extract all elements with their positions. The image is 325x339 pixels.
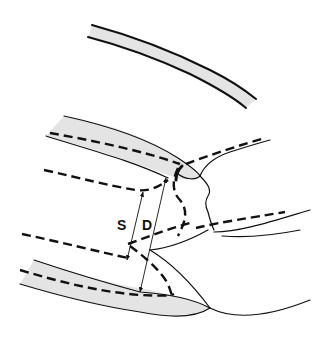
lower-junction-dashed-line [128, 222, 194, 244]
lower-wedge [20, 260, 210, 316]
lower-left-dashed-line [22, 234, 128, 258]
lower-right-dashed-line [196, 212, 285, 228]
middle-left-dashed-line [44, 170, 168, 190]
label-s: S [117, 217, 126, 233]
top-curved-band [88, 25, 256, 108]
label-d: D [142, 217, 152, 233]
lower-right-solid-line-2 [222, 230, 300, 237]
diagram: S D [0, 0, 325, 339]
upper-right-dashed-line [186, 138, 265, 164]
upper-right-solid-curve [200, 140, 270, 176]
right-wavy-connector [200, 176, 214, 230]
